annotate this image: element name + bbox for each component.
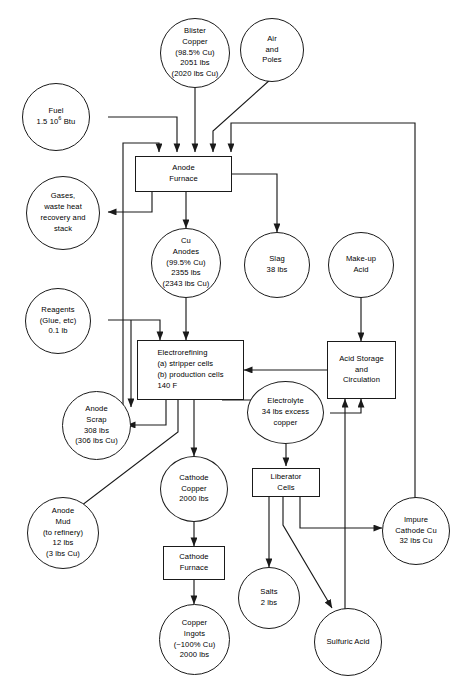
node-fuel-label: Fuel1.5 106 Btu [35, 106, 78, 128]
node-slag-label: Slag 38 lbs [265, 254, 290, 276]
node-acid-storage[interactable]: Acid Storage and Circulation [327, 341, 396, 399]
node-anode-scrap-label: Anode Scrap 308 lbs (306 lbs Cu) [73, 404, 120, 447]
node-make-up-acid[interactable]: Make-up Acid [328, 232, 394, 298]
node-fuel-label-line2-post: Btu [62, 117, 76, 126]
node-cathode-furnace[interactable]: Cathode Furnace [163, 546, 225, 580]
node-make-up-acid-label: Make-up Acid [344, 254, 378, 276]
node-fuel[interactable]: Fuel1.5 106 Btu [22, 83, 90, 151]
node-sulfuric-acid-label: Sulfuric Acid [324, 637, 371, 648]
node-anode-scrap[interactable]: Anode Scrap 308 lbs (306 lbs Cu) [62, 391, 131, 460]
node-air-and-poles-label: Air and Poles [260, 34, 284, 66]
node-slag[interactable]: Slag 38 lbs [244, 232, 310, 298]
node-electrolyte-label: Electrolyte 34 lbs excess copper [260, 396, 311, 428]
node-anode-mud[interactable]: Anode Mud (to refinery) 12 lbs (3 lbs Cu… [27, 497, 99, 569]
node-salts[interactable]: Salts 2 lbs [238, 567, 300, 629]
node-sulfuric-acid[interactable]: Sulfuric Acid [314, 608, 382, 676]
node-anode-mud-label: Anode Mud (to refinery) 12 lbs (3 lbs Cu… [41, 506, 85, 560]
node-blister-copper[interactable]: Blister Copper (98.5% Cu) 2051 lbs (2020… [160, 18, 230, 88]
node-cathode-copper-label: Cathode Copper 2000 lbs [177, 473, 211, 505]
node-reagents-label: Reagents (Glue, etc) 0.1 lb [38, 305, 79, 337]
node-cathode-copper[interactable]: Cathode Copper 2000 lbs [160, 456, 228, 522]
edge-reagents-to-electrorefining [108, 320, 160, 340]
node-air-and-poles[interactable]: Air and Poles [240, 18, 304, 82]
node-copper-ingots[interactable]: Copper Ingots (~100% Cu) 2000 lbs [159, 604, 230, 675]
node-acid-storage-label: Acid Storage and Circulation [337, 354, 386, 386]
node-impure-cathode-cu[interactable]: Impure Cathode Cu 32 lbs Cu [382, 497, 450, 565]
edge-furnace-to-gases [108, 192, 152, 212]
edge-impure-to-furnace [231, 123, 415, 503]
node-gases-waste-heat-label: Gases, waste heat recovery and stack [38, 191, 87, 234]
edge-electrolyte-to-acidstorage [330, 399, 361, 413]
node-electrorefining-label: Electrorefining (a) stripper cells (b) p… [155, 348, 225, 391]
node-fuel-label-line1: Fuel [48, 106, 63, 115]
edge-fuel-to-furnace [108, 117, 177, 152]
node-fuel-label-line2-pre: 1.5 10 [37, 117, 59, 126]
node-liberator-cells[interactable]: Liberator Cells [252, 468, 320, 497]
node-liberator-cells-label: Liberator Cells [269, 472, 304, 494]
node-copper-ingots-label: Copper Ingots (~100% Cu) 2000 lbs [172, 618, 218, 661]
node-electrolyte[interactable]: Electrolyte 34 lbs excess copper [247, 381, 324, 444]
node-gases-waste-heat[interactable]: Gases, waste heat recovery and stack [26, 176, 100, 250]
node-cathode-furnace-label: Cathode Furnace [177, 552, 210, 574]
edge-air-to-furnace [213, 79, 271, 152]
node-blister-copper-label: Blister Copper (98.5% Cu) 2051 lbs (2020… [170, 26, 221, 80]
node-electrorefining[interactable]: Electrorefining (a) stripper cells (b) p… [137, 340, 244, 400]
node-reagents[interactable]: Reagents (Glue, etc) 0.1 lb [25, 288, 91, 354]
edge-liberatorcells-to-impure [300, 497, 382, 528]
node-anode-furnace[interactable]: Anode Furnace [135, 156, 232, 192]
process-flow-diagram: Blister Copper (98.5% Cu) 2051 lbs (2020… [0, 0, 453, 694]
node-salts-label: Salts 2 lbs [258, 587, 279, 609]
edge-electrorefining-to-anodescrap [127, 400, 166, 425]
node-anode-furnace-label: Anode Furnace [167, 163, 200, 185]
node-impure-cathode-cu-label: Impure Cathode Cu 32 lbs Cu [393, 515, 439, 547]
node-cu-anodes-label: Cu Anodes (99.5% Cu) 2355 lbs (2343 lbs … [161, 236, 212, 290]
node-cu-anodes[interactable]: Cu Anodes (99.5% Cu) 2355 lbs (2343 lbs … [151, 228, 221, 298]
edge-furnace-to-slag [232, 174, 277, 232]
